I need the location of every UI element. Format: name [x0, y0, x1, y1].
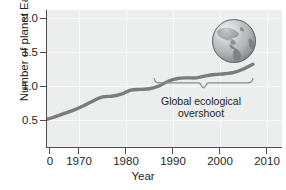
overshoot-annotation: Global ecological overshoot	[142, 96, 260, 119]
x-tick-label: 1990	[153, 155, 193, 167]
x-tick-mark	[266, 148, 267, 154]
ecological-footprint-chart: 2.0 1.5 1.0 0.5 Number of planet Earths	[0, 0, 286, 190]
x-tick-mark	[78, 148, 79, 154]
x-axis-title: Year	[0, 170, 286, 182]
x-tick-mark	[49, 148, 50, 154]
x-tick-label: 1970	[59, 155, 99, 167]
y-axis-title: Number of planet Earths	[18, 0, 30, 109]
x-tick-mark	[219, 148, 220, 154]
earth-globe-svg	[211, 18, 257, 64]
x-tick-mark	[172, 148, 173, 154]
x-tick-label: 2010	[247, 155, 286, 167]
earth-globe-icon	[211, 18, 257, 64]
y-tick-label: 0.5	[0, 114, 38, 126]
x-tick-mark	[125, 148, 126, 154]
x-tick-label: 1980	[106, 155, 146, 167]
x-tick-label: 2000	[200, 155, 240, 167]
annotation-line-1: Global ecological	[142, 96, 260, 108]
brace-path	[154, 78, 253, 88]
annotation-line-2: overshoot	[142, 108, 260, 120]
